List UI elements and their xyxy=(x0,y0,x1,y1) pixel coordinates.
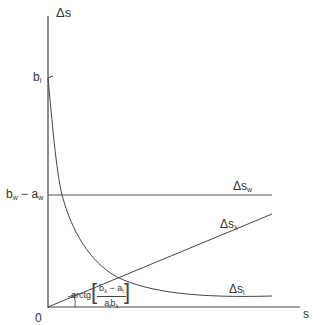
ds-w-label: Δsw xyxy=(233,180,252,193)
ds-w-sub: w xyxy=(247,186,252,193)
right-bracket: ] xyxy=(124,281,130,303)
minus-sign: − xyxy=(18,187,32,201)
bw-base: b xyxy=(6,187,13,201)
aw-sub: w xyxy=(38,194,43,201)
diagram-canvas xyxy=(0,0,325,325)
b-l-sub: l xyxy=(40,77,42,84)
den-b-sub: λ xyxy=(116,303,119,309)
bw-minus-aw-label: bw − aw xyxy=(6,188,43,201)
num-minus: − xyxy=(107,283,117,293)
arctg-fraction: bλ − al albλ xyxy=(97,284,126,309)
fraction-numerator: bλ − al xyxy=(97,284,126,297)
arctg-label: arctg xyxy=(71,291,91,300)
ds-l-base: Δs xyxy=(229,282,243,296)
origin-label: 0 xyxy=(35,312,42,324)
ds-lambda-base: Δs xyxy=(220,217,234,231)
fraction-denominator: albλ xyxy=(104,297,118,309)
b-l-tick xyxy=(48,76,53,78)
ds-lambda-sub: λ xyxy=(234,224,238,231)
ds-l-label: Δsl xyxy=(229,283,245,296)
ds-l-sub: l xyxy=(243,289,245,296)
y-axis-label: Δs xyxy=(56,6,71,19)
b-l-base: b xyxy=(33,70,40,84)
b-l-label: bl xyxy=(33,71,41,84)
ds-w-base: Δs xyxy=(233,179,247,193)
x-axis-label: s xyxy=(303,308,309,320)
ds-lambda-label: Δsλ xyxy=(220,218,238,231)
